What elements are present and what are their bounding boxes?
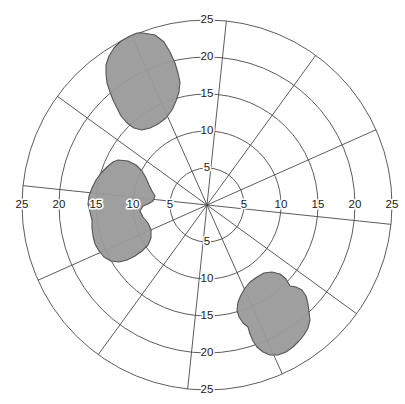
polar-grid	[22, 20, 392, 390]
tick-up-15: 15	[201, 87, 214, 99]
tick-right-15: 15	[312, 198, 325, 210]
polar-chart: 5510101515202025255510101515202025255510…	[0, 0, 405, 404]
tick-right-25: 25	[386, 198, 399, 210]
tick-up-5: 5	[204, 161, 210, 173]
polar-regions	[88, 33, 310, 355]
region-upper-left	[106, 33, 180, 130]
tick-up-20: 20	[201, 50, 214, 62]
tick-down-25: 25	[201, 383, 214, 395]
tick-right-20: 20	[349, 198, 362, 210]
tick-left-25: 25	[16, 198, 29, 210]
tick-up-25: 25	[201, 13, 214, 25]
tick-left-15: 15	[90, 198, 103, 210]
tick-down-15: 15	[201, 309, 214, 321]
tick-down-5: 5	[204, 235, 210, 247]
tick-down-20: 20	[201, 346, 214, 358]
tick-right-5: 5	[241, 198, 247, 210]
tick-right-10: 10	[275, 198, 288, 210]
tick-up-10: 10	[201, 124, 214, 136]
tick-down-10: 10	[201, 272, 214, 284]
polar-chart-canvas: 5510101515202025255510101515202025255510…	[0, 0, 405, 404]
tick-left-5: 5	[167, 198, 173, 210]
tick-left-20: 20	[53, 198, 66, 210]
tick-left-10: 10	[127, 198, 140, 210]
region-left	[88, 160, 155, 262]
region-lower-right	[237, 272, 310, 355]
